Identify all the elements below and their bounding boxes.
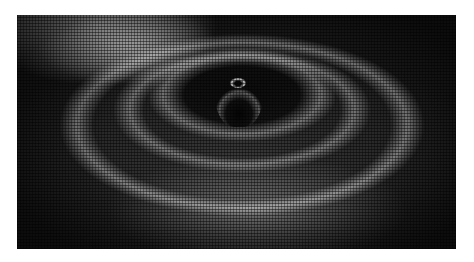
- ripple-surface-image: [17, 15, 456, 249]
- vignette: [17, 15, 456, 249]
